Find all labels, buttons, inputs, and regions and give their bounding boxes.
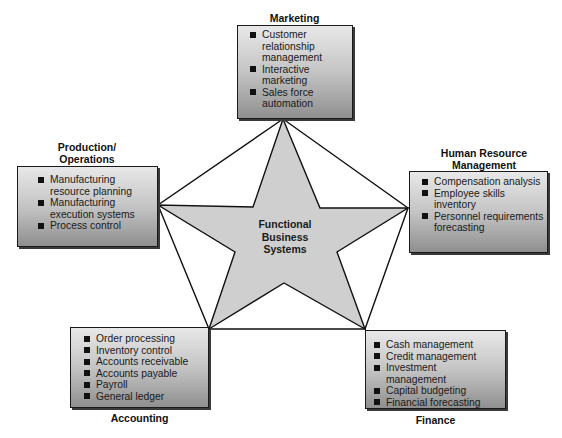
marketing-box: Customer relationship management Interac… — [237, 25, 353, 119]
center-label-line3: Systems — [243, 243, 327, 256]
list-item: Manufacturing execution systems — [38, 197, 151, 220]
production-title-line1: Production/ — [17, 141, 157, 153]
hr-title-line2: Management — [420, 159, 548, 171]
center-label: Functional Business Systems — [243, 218, 327, 256]
production-list: Manufacturing resource planning Manufact… — [38, 174, 151, 232]
list-item: Employee skills inventory — [422, 188, 545, 211]
marketing-title: Marketing — [237, 12, 352, 24]
list-item: Personnel requirements forecasting — [422, 211, 545, 234]
finance-list: Cash management Credit management Invest… — [374, 339, 499, 408]
list-item: Financial forecasting — [374, 397, 499, 409]
hr-box: Compensation analysis Employee skills in… — [409, 171, 548, 253]
hr-title-line1: Human Resource — [420, 147, 548, 159]
list-item: Interactive marketing — [250, 64, 346, 87]
list-item: Inventory control — [84, 345, 202, 357]
center-label-line1: Functional — [243, 218, 327, 231]
accounting-title: Accounting — [70, 412, 209, 424]
list-item: Investment management — [374, 362, 499, 385]
list-item: Sales force automation — [250, 87, 346, 110]
marketing-list: Customer relationship management Interac… — [250, 29, 346, 110]
list-item: Payroll — [84, 379, 202, 391]
finance-box: Cash management Credit management Invest… — [365, 330, 506, 409]
finance-title: Finance — [365, 414, 506, 426]
list-item: Accounts payable — [84, 368, 202, 380]
list-item: Credit management — [374, 351, 499, 363]
production-title: Production/ Operations — [17, 141, 157, 165]
production-box: Manufacturing resource planning Manufact… — [17, 166, 158, 247]
production-title-line2: Operations — [17, 153, 157, 165]
hr-list: Compensation analysis Employee skills in… — [422, 176, 545, 234]
list-item: Process control — [38, 220, 151, 232]
accounting-box: Order processing Inventory control Accou… — [70, 327, 209, 408]
list-item: Order processing — [84, 333, 202, 345]
hr-title: Human Resource Management — [420, 147, 548, 171]
list-item: General ledger — [84, 391, 202, 403]
list-item: Compensation analysis — [422, 176, 545, 188]
list-item: Capital budgeting — [374, 385, 499, 397]
list-item: Cash management — [374, 339, 499, 351]
accounting-list: Order processing Inventory control Accou… — [84, 333, 202, 402]
center-label-line2: Business — [243, 231, 327, 244]
list-item: Customer relationship management — [250, 29, 346, 64]
list-item: Manufacturing resource planning — [38, 174, 151, 197]
list-item: Accounts receivable — [84, 356, 202, 368]
